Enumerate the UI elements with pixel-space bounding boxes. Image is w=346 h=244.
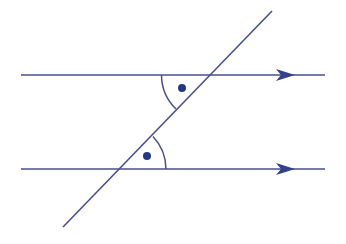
angle-dot-icon (178, 84, 186, 92)
angle-dot-icon (143, 152, 151, 160)
background (0, 0, 346, 244)
alternate-angles-diagram: Alternate angles between parallel lines (0, 0, 346, 244)
